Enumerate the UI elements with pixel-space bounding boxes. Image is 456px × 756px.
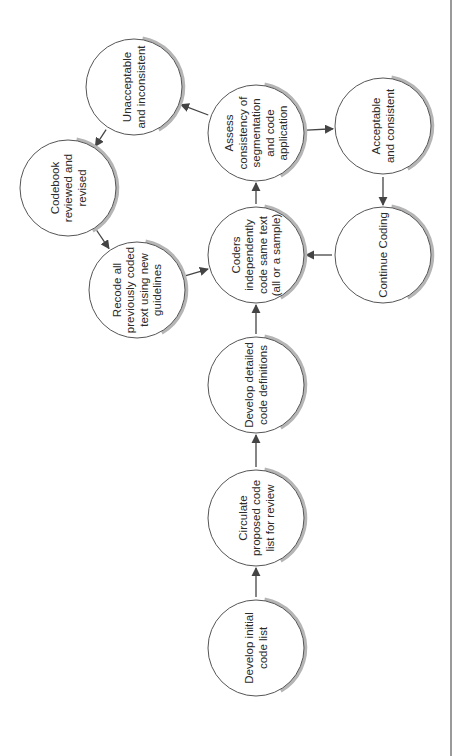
node-initial: Develop initialcode list (208, 599, 306, 696)
node-label-line: Unacceptable (121, 52, 133, 122)
node-assess: Assessconsistency ofsegmentationand code… (208, 84, 306, 181)
node-label-line: code list (257, 626, 269, 669)
node-label-line: text using new (138, 253, 150, 327)
node-label: Continue Coding (377, 212, 389, 298)
arrow-codebook-to-recode (97, 230, 109, 248)
node-label-line: Acceptable (370, 98, 382, 155)
arrow-recode-to-coders (186, 269, 208, 276)
node-label-line: Continue Coding (377, 212, 389, 298)
node-label-line: Coders (230, 236, 242, 273)
node-label-line: guidelines (151, 264, 163, 316)
node-label-line: Develop detailed (243, 342, 255, 428)
node-codebook: Codebookreviewed andrevised (20, 139, 117, 236)
node-label-line: previously coded (124, 247, 136, 333)
node-continue: Continue Coding (335, 206, 433, 303)
node-label: Acceptableand consistent (370, 88, 396, 163)
node-label-line: Develop initial (243, 612, 255, 684)
node-label-line: code same text (257, 215, 269, 294)
node-label-line: (all or a sample) (270, 214, 282, 297)
nodes-layer: Develop initialcode listCirculatepropose… (20, 38, 433, 696)
node-coders: Codersindependentlycode same text(all or… (208, 206, 305, 303)
arrow-assess-to-unacceptable (181, 105, 208, 115)
node-label: Unacceptableand inconsistent (121, 45, 147, 129)
node-label-line: application (277, 106, 289, 161)
node-label-line: and consistent (384, 88, 396, 163)
node-label-line: and inconsistent (135, 45, 147, 129)
node-circulate: Circulateproposed codelist for review (208, 469, 306, 566)
node-label-line: list for review (264, 484, 276, 552)
node-label-line: Circulate (237, 495, 249, 540)
node-label-line: segmentation (250, 98, 262, 167)
node-label-line: reviewed and (62, 154, 74, 222)
node-label-line: and code (264, 109, 276, 156)
node-acceptable: Acceptableand consistent (335, 77, 433, 174)
node-unacceptable: Unacceptableand inconsistent (86, 38, 184, 135)
node-label: Develop detailedcode definitions (243, 342, 269, 428)
node-label-line: consistency of (237, 96, 249, 170)
node-recode: Recode allpreviously codedtext using new… (89, 241, 187, 338)
node-label-line: code definitions (257, 345, 269, 425)
node-label-line: Recode all (111, 263, 123, 317)
arrow-unacceptable-to-codebook (95, 130, 106, 146)
node-label-line: Codebook (49, 162, 61, 215)
node-label-line: independently (243, 219, 255, 291)
node-label-line: Assess (223, 114, 235, 151)
coding-process-flow-diagram: Develop initialcode listCirculatepropose… (0, 0, 456, 756)
node-label-line: revised (76, 169, 88, 206)
node-detailed: Develop detailedcode definitions (208, 336, 306, 433)
node-label-line: proposed code (250, 480, 262, 556)
arrow-assess-to-acceptable (307, 129, 333, 130)
